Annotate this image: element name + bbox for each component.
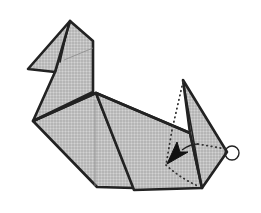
- origami-bird-diagram: [0, 0, 261, 213]
